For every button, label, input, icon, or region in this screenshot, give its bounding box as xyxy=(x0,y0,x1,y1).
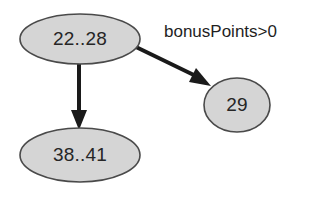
node-29-label: 29 xyxy=(226,94,248,115)
arrowhead-vertical xyxy=(71,110,87,130)
edge-22-28-to-38-41[interactable] xyxy=(71,62,87,130)
edge-label-bonus-points: bonusPoints>0 xyxy=(164,22,277,41)
edge-22-28-to-29[interactable] xyxy=(136,47,211,86)
node-38-41[interactable]: 38..41 xyxy=(20,128,140,182)
arrowhead-diagonal xyxy=(189,68,211,86)
node-22-28-label: 22..28 xyxy=(53,28,107,49)
diagram-canvas: 22..28 38..41 29 bonusPoints>0 xyxy=(0,0,327,202)
node-38-41-label: 38..41 xyxy=(53,144,107,165)
edge-line-diagonal xyxy=(136,47,200,78)
state-transition-diagram: 22..28 38..41 29 bonusPoints>0 xyxy=(0,0,327,202)
node-22-28[interactable]: 22..28 xyxy=(20,14,140,64)
node-29[interactable]: 29 xyxy=(204,78,270,132)
